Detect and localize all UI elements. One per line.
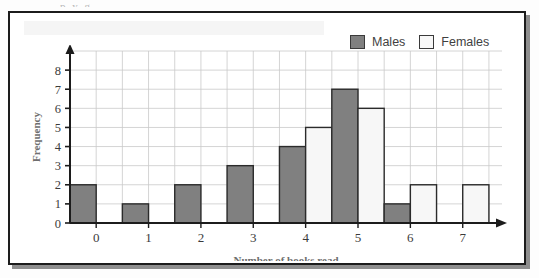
x-tick-label: 3	[250, 230, 256, 245]
x-tick-label: 5	[355, 230, 362, 245]
bar-males-2	[175, 185, 201, 223]
x-tick-label: 2	[198, 230, 205, 245]
x-tick-label: 7	[459, 230, 466, 245]
y-tick-label: 6	[55, 102, 61, 116]
plot-area: 012345678 01234567 Number of books read …	[24, 45, 524, 261]
y-axis-title: Frequency	[30, 112, 42, 162]
y-tick-label: 0	[55, 217, 61, 231]
x-tick-label: 4	[302, 230, 309, 245]
y-tick-label: 8	[55, 64, 61, 78]
x-axis-ticks: 01234567	[93, 223, 467, 245]
bar-males-0	[70, 185, 96, 223]
y-tick-label: 7	[55, 83, 61, 97]
bar-females-4	[306, 127, 332, 223]
bar-males-6	[384, 204, 410, 223]
x-tick-label: 0	[93, 230, 100, 245]
scan-page: p y g Males Females	[0, 0, 539, 278]
x-tick-label: 6	[407, 230, 414, 245]
bar-chart-svg: 012345678 01234567 Number of books read …	[24, 45, 524, 261]
y-tick-label: 4	[55, 140, 62, 154]
y-tick-label: 5	[55, 121, 61, 135]
y-tick-label: 1	[55, 197, 61, 211]
bar-males-3	[227, 166, 253, 223]
bar-females-6	[410, 185, 436, 223]
scan-smudge	[24, 21, 324, 35]
x-tick-label: 1	[145, 230, 152, 245]
y-tick-label: 3	[55, 159, 61, 173]
x-axis-title: Number of books read	[233, 254, 338, 261]
clipped-text-above-figure: p y g	[60, 0, 260, 7]
y-axis-ticks: 012345678	[55, 64, 70, 231]
bar-males-1	[122, 204, 148, 223]
bar-males-5	[332, 89, 358, 223]
bar-males-4	[279, 147, 305, 223]
y-tick-label: 2	[55, 178, 61, 192]
bar-females-7	[463, 185, 489, 223]
bar-females-5	[358, 108, 384, 223]
figure-frame: Males Females	[8, 11, 526, 265]
